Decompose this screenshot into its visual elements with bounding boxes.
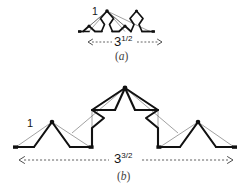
panel-b-hull-ll-rise-icon xyxy=(16,122,52,147)
panel-b-hull-ll-fall-icon xyxy=(52,122,90,147)
panel-a-unit-label: 1 xyxy=(92,6,98,17)
panel-a-dimension-exponent: 1/2 xyxy=(121,34,132,43)
panel-a-node-left-end xyxy=(78,30,81,33)
fractal-figure-root: 1 31/2 (a) 1 33/2 (b) xyxy=(0,0,250,190)
panel-b-vertex-nodes xyxy=(13,86,237,149)
panel-a-dimension-label: 31/2 xyxy=(114,35,132,48)
panel-b-unit-label: 1 xyxy=(27,118,33,129)
panel-b-caption: (b) xyxy=(117,171,130,183)
panel-a-thick-right-riser xyxy=(130,11,137,32)
panel-a-node-right-end xyxy=(152,30,155,33)
panel-b-right-arrowhead-icon xyxy=(228,157,234,164)
panel-b-caption-close: ) xyxy=(127,170,131,182)
panel-a-hull-outer-icon xyxy=(83,11,131,32)
panel-b-hull-rr-rise-icon xyxy=(198,122,234,147)
panel-b-node-left-base xyxy=(89,145,94,148)
panel-b-hull-rr-fall-icon xyxy=(160,122,198,147)
panel-a-node-left-peak xyxy=(88,25,91,28)
panel-b-node-left-peak xyxy=(50,120,55,125)
panel-a-right-arrowhead-icon xyxy=(158,39,163,45)
panel-a-caption-close: ) xyxy=(125,50,129,62)
panel-b-thin-hull xyxy=(16,88,234,147)
panel-a-caption: (a) xyxy=(115,51,128,63)
panel-a-node-right-apex xyxy=(135,10,138,13)
panel-a-node-right-peak xyxy=(124,25,127,28)
panel-a-node-apex xyxy=(105,9,109,13)
panel-a-left-arrowhead-icon xyxy=(88,39,93,45)
panel-b-node-right-end xyxy=(232,145,237,148)
panel-b-node-left-end xyxy=(13,145,18,148)
panel-b-node-right-base xyxy=(156,145,161,148)
panel-b-dimension-exponent: 3/2 xyxy=(121,151,132,160)
panel-a-vertex-nodes xyxy=(78,9,155,33)
panel-b-node-right-peak xyxy=(196,120,201,125)
panel-b-left-arrowhead-icon xyxy=(19,157,25,164)
panel-b-node-apex xyxy=(123,86,128,91)
panel-b-dimension-label: 33/2 xyxy=(114,152,132,165)
